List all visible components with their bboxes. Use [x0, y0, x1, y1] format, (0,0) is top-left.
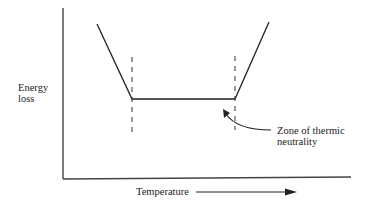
x-axis-label: Temperature: [136, 186, 189, 197]
x-axis: [63, 177, 351, 179]
energy-loss-diagram: Energy loss Temperature Zone of thermic …: [0, 0, 372, 204]
annotation-label-line2: neutrality: [277, 136, 317, 147]
diagram-canvas: [0, 0, 372, 204]
annotation-arrow: [226, 114, 271, 130]
annotation-arrowhead-icon: [223, 109, 230, 118]
y-axis-label-line1: Energy: [18, 82, 48, 93]
y-axis-label-line2: loss: [18, 93, 34, 104]
temperature-arrowhead-icon: [285, 189, 297, 196]
annotation-label-line1: Zone of thermic: [277, 125, 345, 136]
energy-loss-curve: [97, 22, 269, 99]
